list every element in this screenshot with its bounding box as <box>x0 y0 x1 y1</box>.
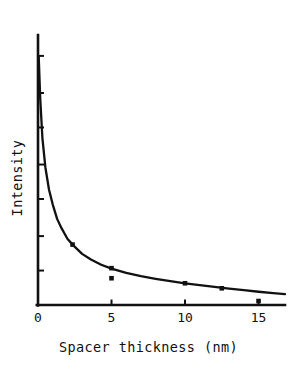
data-point-3 <box>183 281 188 286</box>
data-point-2 <box>109 276 114 281</box>
data-markers <box>70 242 261 303</box>
decay-curve <box>39 57 285 294</box>
data-point-4 <box>219 286 224 291</box>
x-axis-label: Spacer thickness (nm) <box>0 339 297 355</box>
data-point-5 <box>256 299 261 304</box>
data-point-0 <box>70 242 75 247</box>
x-tick-label-2: 10 <box>165 310 205 325</box>
y-axis-label: Intensity <box>9 140 25 217</box>
x-tick-label-3: 15 <box>239 310 279 325</box>
y-axis-label-container: Intensity <box>6 118 28 238</box>
x-tick-label-1: 5 <box>92 310 132 325</box>
x-tick-label-0: 0 <box>18 310 58 325</box>
chart-figure: 051015 Intensity Spacer thickness (nm) <box>0 0 297 377</box>
data-point-1 <box>109 266 114 271</box>
